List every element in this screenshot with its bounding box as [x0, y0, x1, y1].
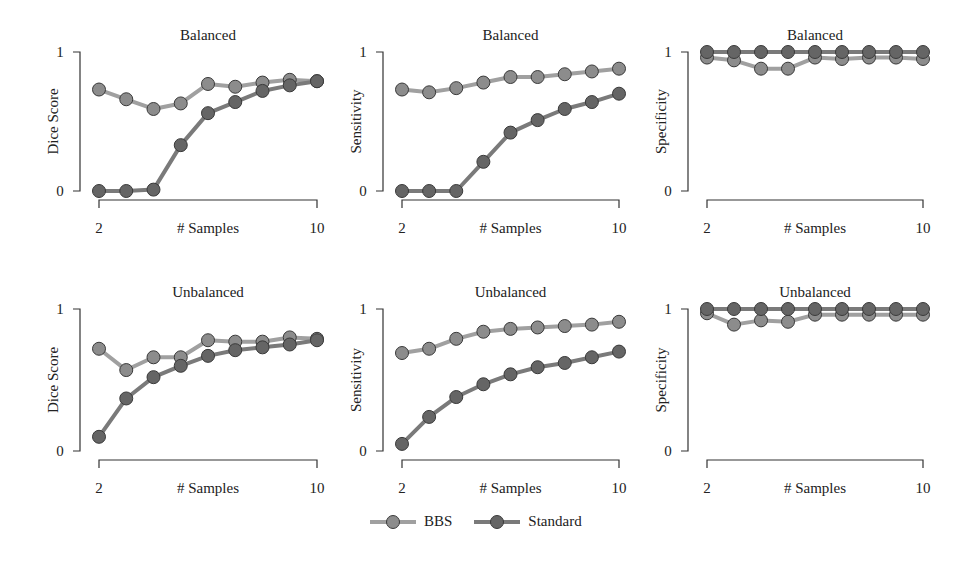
y-axis [681, 52, 688, 191]
data-point-standard [917, 303, 930, 316]
chart-panel-3: 10210# SamplesSpecificityBalanced [653, 27, 931, 236]
y-tick-label: 1 [664, 301, 672, 317]
chart-grid: 10210# SamplesDice ScoreBalanced10210# S… [0, 0, 974, 564]
data-point-standard [423, 185, 436, 198]
data-point-standard [755, 303, 768, 316]
data-point-standard [120, 392, 133, 405]
data-point-bbs [450, 82, 463, 95]
y-tick-label: 0 [56, 443, 64, 459]
legend-standard-label: Standard [528, 513, 581, 530]
data-point-standard [147, 371, 160, 384]
x-axis-label: # Samples [479, 220, 541, 236]
data-point-standard [782, 46, 795, 59]
x-tick-label: 10 [310, 220, 325, 236]
x-tick-label: 10 [612, 220, 627, 236]
data-point-bbs [531, 71, 544, 84]
y-axis [73, 309, 80, 451]
data-point-standard [558, 102, 571, 115]
x-axis-label: # Samples [177, 480, 239, 496]
x-axis [707, 460, 923, 468]
data-point-bbs [229, 80, 242, 93]
x-tick-label: 2 [703, 480, 711, 496]
data-point-standard [147, 183, 160, 196]
y-tick-label: 0 [664, 443, 672, 459]
data-point-standard [450, 391, 463, 404]
panel-title: Balanced [787, 27, 843, 43]
data-point-standard [701, 303, 714, 316]
legend-bbs-label: BBS [424, 513, 452, 530]
x-axis [402, 200, 619, 208]
x-axis-label: # Samples [479, 480, 541, 496]
data-point-standard [283, 79, 296, 92]
data-point-bbs [477, 325, 490, 338]
y-tick-label: 1 [56, 44, 64, 60]
y-axis-label: Dice Score [45, 347, 61, 414]
data-point-bbs [93, 83, 106, 96]
data-point-standard [450, 185, 463, 198]
data-point-bbs [120, 93, 133, 106]
series-line-standard [402, 352, 619, 444]
data-point-bbs [782, 315, 795, 328]
panel-title: Unbalanced [172, 284, 244, 300]
data-point-standard [504, 126, 517, 139]
panel-title: Unbalanced [475, 284, 547, 300]
x-tick-label: 10 [916, 480, 931, 496]
legend-item-standard: Standard [474, 513, 581, 530]
chart-panel-2: 10210# SamplesSensitivityBalanced [348, 27, 627, 236]
data-point-standard [396, 185, 409, 198]
legend-standard-marker-icon [474, 515, 520, 529]
data-point-bbs [477, 76, 490, 89]
y-tick-label: 1 [359, 44, 367, 60]
y-axis-label: Dice Score [45, 88, 61, 155]
x-tick-label: 10 [916, 220, 931, 236]
data-point-standard [311, 334, 324, 347]
data-point-standard [728, 46, 741, 59]
panel-title: Unbalanced [779, 284, 851, 300]
y-tick-label: 0 [56, 183, 64, 199]
data-point-bbs [202, 77, 215, 90]
panel-title: Balanced [180, 27, 236, 43]
y-tick-label: 0 [664, 183, 672, 199]
x-tick-label: 2 [398, 480, 406, 496]
y-axis-label: Sensitivity [348, 89, 364, 154]
x-tick-label: 2 [95, 220, 103, 236]
data-point-bbs [396, 83, 409, 96]
y-axis-label: Sensitivity [348, 347, 364, 412]
data-point-standard [558, 356, 571, 369]
x-axis [707, 200, 923, 208]
data-point-standard [863, 303, 876, 316]
data-point-standard [836, 46, 849, 59]
x-axis-label: # Samples [784, 480, 846, 496]
data-point-bbs [755, 62, 768, 75]
x-tick-label: 2 [398, 220, 406, 236]
y-axis [73, 52, 80, 191]
y-axis [376, 52, 383, 191]
y-tick-label: 1 [664, 44, 672, 60]
y-tick-label: 1 [359, 301, 367, 317]
x-axis-label: # Samples [784, 220, 846, 236]
chart-panel-5: 10210# SamplesSensitivityUnbalanced [348, 284, 627, 496]
data-point-bbs [504, 322, 517, 335]
data-point-standard [782, 303, 795, 316]
data-point-bbs [613, 62, 626, 75]
data-point-standard [890, 46, 903, 59]
data-point-bbs [585, 65, 598, 78]
data-point-bbs [147, 351, 160, 364]
data-point-bbs [558, 68, 571, 81]
data-point-standard [477, 155, 490, 168]
legend: BBS Standard [370, 513, 582, 530]
data-point-bbs [174, 97, 187, 110]
data-point-bbs [782, 62, 795, 75]
data-point-bbs [423, 86, 436, 99]
data-point-bbs [396, 347, 409, 360]
data-point-standard [477, 378, 490, 391]
data-point-standard [836, 303, 849, 316]
legend-bbs-marker-icon [370, 515, 416, 529]
x-axis [99, 460, 317, 468]
data-point-standard [174, 139, 187, 152]
data-point-bbs [202, 334, 215, 347]
data-point-standard [93, 430, 106, 443]
data-point-standard [755, 46, 768, 59]
data-point-standard [863, 46, 876, 59]
data-point-standard [256, 84, 269, 97]
